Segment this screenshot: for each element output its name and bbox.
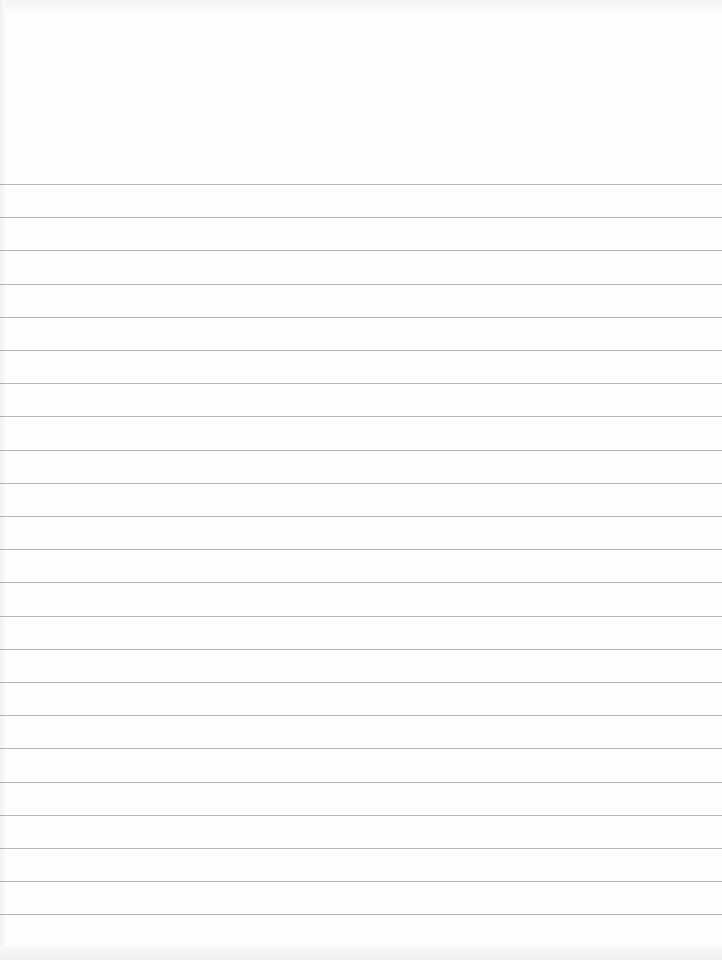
ruled-line xyxy=(0,184,722,185)
ruled-line xyxy=(0,383,722,384)
ruled-line xyxy=(0,450,722,451)
ruled-line xyxy=(0,848,722,849)
left-page-edge xyxy=(0,0,6,960)
bottom-page-edge xyxy=(0,946,722,960)
ruled-line xyxy=(0,649,722,650)
ruled-line xyxy=(0,549,722,550)
ruled-line xyxy=(0,616,722,617)
ruled-line xyxy=(0,914,722,915)
ruled-line xyxy=(0,715,722,716)
ruled-line xyxy=(0,250,722,251)
ruled-line xyxy=(0,350,722,351)
ruled-line xyxy=(0,748,722,749)
ruled-line xyxy=(0,483,722,484)
top-page-edge xyxy=(0,0,722,12)
ruled-line xyxy=(0,881,722,882)
ruled-line xyxy=(0,815,722,816)
ruled-line xyxy=(0,516,722,517)
ruled-line xyxy=(0,317,722,318)
ruled-line xyxy=(0,416,722,417)
ruled-line xyxy=(0,284,722,285)
ruled-line xyxy=(0,582,722,583)
ruled-line xyxy=(0,782,722,783)
ruled-line xyxy=(0,682,722,683)
ruled-line xyxy=(0,217,722,218)
